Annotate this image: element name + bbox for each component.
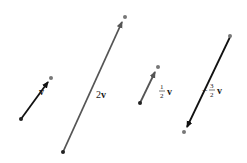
vector-neg-three-halves-v-shaft [187,37,230,127]
vector-v-label: v [39,86,44,97]
vector-half-v-tail-dot [138,101,142,105]
vector-half-v-frac-num: 1 [160,83,164,91]
vector-2v-symbol: v [101,89,106,100]
vector-neg-three-halves-v-head-dot [182,130,186,134]
vector-2v-label: 2v [96,89,106,100]
vector-2v-head-dot [123,15,127,19]
vector-half-v-symbol: v [167,86,172,97]
vector-half-v-shaft [140,72,155,103]
vector-v-head-dot [49,76,53,80]
vector-neg-three-halves-v-frac-den: 2 [210,91,214,99]
vector-neg-three-halves-v-tail-dot [228,34,232,38]
vector-2v-shaft [63,22,122,152]
vector-neg-three-halves-v-frac-num: 3 [210,82,214,90]
vector-neg-three-halves-v: − 3 2 v [182,34,232,134]
vector-half-v: 1 2 v [138,65,172,105]
vector-half-v-head-dot [156,65,160,69]
vector-neg-three-halves-v-symbol: v [217,85,222,96]
vector-2v: 2v [61,15,127,154]
vector-neg-three-halves-v-sign: − [202,85,208,96]
vector-v: v [19,76,53,121]
vector-half-v-frac-den: 2 [160,92,164,100]
vector-2v-tail-dot [61,150,65,154]
vector-scalar-multiples-diagram: v 2v 1 2 v − 3 2 v [0,0,247,163]
vector-v-tail-dot [19,117,23,121]
